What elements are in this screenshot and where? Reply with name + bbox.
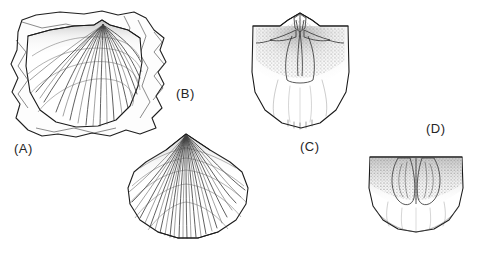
figure-a-drawing	[6, 6, 174, 140]
figure-d-label: (D)	[426, 121, 446, 136]
figure-d-specimen	[364, 150, 468, 240]
figure-b-label: (B)	[176, 86, 195, 101]
figure-b-drawing	[118, 128, 258, 246]
figure-c-drawing	[244, 10, 358, 136]
figure-b-specimen	[118, 128, 258, 246]
illustration-plate: (A)	[0, 0, 494, 253]
figure-c-label: (C)	[300, 139, 320, 154]
figure-a-specimen	[6, 6, 174, 140]
figure-a-label: (A)	[14, 141, 33, 156]
figure-d-drawing	[364, 150, 468, 240]
figure-c-specimen	[244, 10, 358, 136]
